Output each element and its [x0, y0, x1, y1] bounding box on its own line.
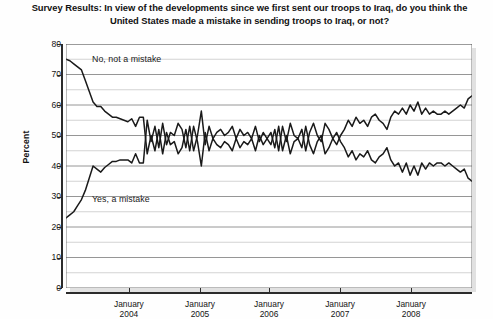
- y-tick-mark: [57, 288, 62, 289]
- x-tick-label: January2008: [376, 299, 446, 319]
- plot-svg: [66, 44, 472, 288]
- x-tick-year: 2007: [305, 309, 375, 319]
- x-tick-year: 2004: [94, 309, 164, 319]
- x-tick-month: January: [94, 299, 164, 309]
- x-tick-label: January2004: [94, 299, 164, 319]
- x-tick-label: January2006: [234, 299, 304, 319]
- y-axis-tick-labels: 01020304050607080: [28, 44, 61, 288]
- series-label-yes: Yes, a mistake: [92, 194, 150, 204]
- chart-figure: Survey Results: In view of the developme…: [0, 0, 493, 319]
- x-tick-label: January2007: [305, 299, 375, 319]
- x-tick-label: January2005: [165, 299, 235, 319]
- x-tick-month: January: [305, 299, 375, 309]
- x-axis-tick-labels: January2004January2005January2006January…: [66, 292, 472, 318]
- series-label-no: No, not a mistake: [92, 54, 161, 64]
- y-axis-spine: [61, 44, 63, 288]
- page-title: Survey Results: In view of the developme…: [22, 2, 477, 27]
- x-tick-year: 2008: [376, 309, 446, 319]
- x-tick-month: January: [165, 299, 235, 309]
- x-tick-month: January: [376, 299, 446, 309]
- x-tick-year: 2006: [234, 309, 304, 319]
- x-tick-month: January: [234, 299, 304, 309]
- x-tick-year: 2005: [165, 309, 235, 319]
- x-axis-spine: [66, 292, 472, 294]
- plot-area: No, not a mistake Yes, a mistake: [66, 44, 472, 288]
